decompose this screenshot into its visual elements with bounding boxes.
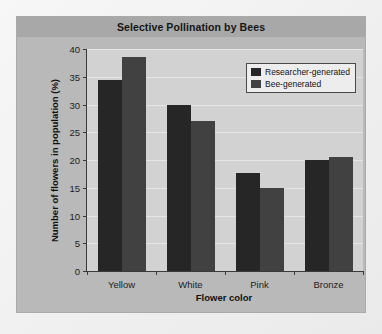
legend-item: Bee-generated bbox=[251, 79, 350, 89]
y-axis-tick bbox=[83, 188, 87, 189]
y-axis-tick bbox=[83, 216, 87, 217]
legend-swatch-icon bbox=[251, 68, 261, 76]
x-axis-title: Flower color bbox=[86, 292, 362, 303]
page-background: Selective Pollination by Bees Number of … bbox=[0, 0, 382, 334]
y-axis-tick bbox=[83, 243, 87, 244]
x-axis-tick bbox=[294, 271, 295, 275]
chart-title-band: Selective Pollination by Bees bbox=[17, 17, 365, 37]
bar bbox=[329, 157, 353, 271]
bar bbox=[191, 121, 215, 271]
chart-legend: Researcher-generated Bee-generated bbox=[246, 63, 356, 93]
legend-label: Researcher-generated bbox=[265, 67, 350, 77]
y-axis-tick-label: 0 bbox=[75, 266, 80, 277]
bar-group bbox=[167, 49, 215, 271]
x-axis-tick-label: Bronze bbox=[313, 279, 343, 290]
bar bbox=[305, 160, 329, 271]
x-axis-tick-label: White bbox=[178, 279, 202, 290]
y-axis-tick bbox=[83, 77, 87, 78]
y-axis-tick-label: 10 bbox=[69, 210, 80, 221]
x-axis-tick bbox=[225, 271, 226, 275]
x-axis-tick bbox=[87, 271, 88, 275]
chart-title: Selective Pollination by Bees bbox=[117, 21, 265, 33]
legend-swatch-icon bbox=[251, 80, 261, 88]
y-axis-tick bbox=[83, 49, 87, 50]
y-axis-tick-label: 40 bbox=[69, 44, 80, 55]
y-axis-tick-label: 15 bbox=[69, 182, 80, 193]
x-axis-tick-label: Pink bbox=[250, 279, 268, 290]
bar bbox=[167, 105, 191, 272]
y-axis-tick-label: 30 bbox=[69, 99, 80, 110]
bar bbox=[98, 80, 122, 271]
legend-label: Bee-generated bbox=[265, 79, 321, 89]
y-axis-tick-label: 20 bbox=[69, 155, 80, 166]
y-axis-tick-label: 5 bbox=[75, 238, 80, 249]
x-axis-tick bbox=[363, 271, 364, 275]
y-axis-title: Number of flowers in population (%) bbox=[47, 49, 63, 271]
y-axis-tick-label: 35 bbox=[69, 71, 80, 82]
x-axis-tick-label: Yellow bbox=[108, 279, 135, 290]
chart-panel: Selective Pollination by Bees Number of … bbox=[17, 17, 365, 312]
y-axis-tick bbox=[83, 105, 87, 106]
bar bbox=[122, 57, 146, 271]
y-axis-tick bbox=[83, 160, 87, 161]
y-axis-title-text: Number of flowers in population (%) bbox=[50, 78, 61, 241]
bar-group bbox=[98, 49, 146, 271]
y-axis-tick-label: 25 bbox=[69, 127, 80, 138]
x-axis-tick bbox=[156, 271, 157, 275]
y-axis-tick bbox=[83, 132, 87, 133]
bar bbox=[260, 188, 284, 271]
legend-item: Researcher-generated bbox=[251, 67, 350, 77]
bar bbox=[236, 173, 260, 271]
